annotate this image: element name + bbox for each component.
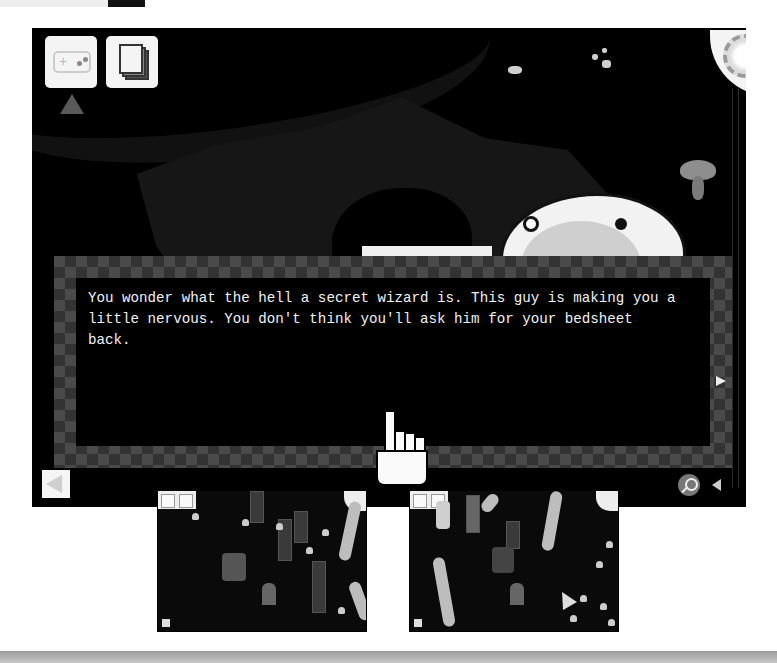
tree	[338, 500, 362, 561]
cursor-icon	[555, 588, 577, 610]
tree	[541, 490, 563, 551]
pillar	[466, 495, 480, 533]
scenery-pebble	[602, 48, 607, 53]
mushroom	[306, 547, 313, 554]
gravestone	[262, 583, 276, 605]
right-arrow-icon[interactable]	[716, 376, 726, 386]
tree	[348, 580, 367, 622]
mushroom	[600, 603, 607, 610]
gamepad-icon: +	[53, 51, 91, 73]
mushroom	[580, 595, 587, 602]
mini-hud	[158, 491, 196, 509]
up-arrow-icon[interactable]	[60, 94, 84, 114]
back-button[interactable]	[42, 470, 70, 498]
pages-icon	[119, 44, 143, 74]
mushroom	[608, 619, 615, 626]
tree	[432, 556, 456, 627]
journal-button[interactable]	[106, 36, 158, 88]
scenery-line	[732, 88, 733, 488]
wizard-sprite	[492, 547, 514, 573]
left-arrow-icon	[46, 475, 62, 493]
game-viewport[interactable]: + You wonder what the hell a secret wiza…	[32, 28, 746, 507]
mushroom-sprite	[680, 160, 716, 202]
bottom-bar	[0, 651, 777, 663]
scenery-pebble	[508, 66, 522, 74]
character-sprite	[222, 553, 246, 581]
hand-pointer-icon	[370, 410, 434, 490]
mushroom	[338, 607, 345, 614]
mushroom	[276, 523, 283, 530]
scenery-pebble	[602, 60, 611, 68]
mushroom	[596, 561, 603, 568]
mushroom	[242, 519, 249, 526]
thumbnail-scene-2[interactable]	[409, 490, 619, 632]
mini-back-icon	[414, 619, 422, 627]
pillar	[294, 511, 308, 543]
pillar	[506, 521, 520, 549]
zoom-button[interactable]	[678, 474, 700, 496]
mushroom	[322, 529, 329, 536]
mushroom	[192, 513, 199, 520]
dialog-text: You wonder what the hell a secret wizard…	[88, 288, 696, 351]
menu-orb-button[interactable]	[710, 30, 746, 96]
pillar	[312, 561, 326, 613]
scenery-pebble	[592, 54, 598, 60]
mini-orb	[596, 491, 618, 511]
pillar	[250, 491, 264, 523]
top-strip	[0, 0, 108, 7]
orb-icon	[723, 34, 746, 78]
mushroom	[570, 615, 577, 622]
scenery-line	[738, 88, 739, 488]
boots-sprite	[436, 501, 450, 529]
top-tab	[108, 0, 145, 7]
gravestone	[510, 583, 524, 605]
magnifier-icon	[685, 478, 698, 491]
thumbnail-scene-1[interactable]	[157, 490, 367, 632]
mini-back-icon	[162, 619, 170, 627]
controller-button[interactable]: +	[45, 36, 97, 88]
tree	[479, 491, 501, 514]
mushroom	[606, 541, 613, 548]
speaker-icon[interactable]	[712, 479, 721, 491]
